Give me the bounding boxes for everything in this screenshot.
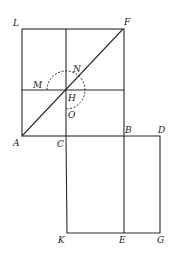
label-m: M [32,80,43,90]
geometry-diagram: L F M N H O A C B D K E G [0,0,176,259]
label-d: D [157,125,165,135]
label-e: E [118,235,126,245]
label-a: A [12,138,20,148]
label-o: O [68,110,76,120]
label-b: B [124,125,132,135]
label-l: L [12,18,19,28]
label-k: K [57,235,66,245]
label-g: G [157,235,164,245]
label-h: H [67,93,76,103]
label-n: N [72,64,82,74]
rectangle-cdgk [66,136,160,233]
label-c: C [57,139,64,149]
label-f: F [123,17,131,27]
